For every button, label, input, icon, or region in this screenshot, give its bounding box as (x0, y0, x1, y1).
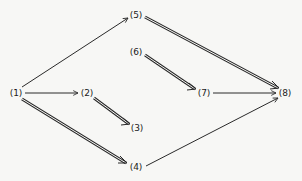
node-3: (3) (131, 123, 144, 133)
node-4: (4) (130, 162, 143, 172)
edge-1-5 (22, 18, 128, 87)
edge-6-7-inner (145, 55, 195, 89)
node-7: (7) (198, 88, 211, 98)
node-5: (5) (130, 10, 143, 20)
edge-2-3-inner (94, 98, 129, 124)
network-diagram: (1) (2) (3) (4) (5) (6) (7) (8) (0, 0, 302, 181)
node-8: (8) (279, 88, 292, 98)
node-2: (2) (81, 88, 94, 98)
node-6: (6) (130, 47, 143, 57)
edge-4-8 (146, 98, 278, 166)
edge-5-8-inner (145, 17, 278, 88)
nodes-layer: (1) (2) (3) (4) (5) (6) (7) (8) (10, 10, 292, 172)
node-1: (1) (10, 88, 23, 98)
edges-layer (22, 17, 279, 166)
